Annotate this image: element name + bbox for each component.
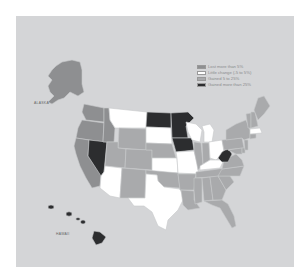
legend-label-gain-big: Gained more than 25% [208, 82, 251, 88]
alaska-label: ALASKA [34, 101, 49, 105]
legend-item-gain-big: Gained more than 25% [197, 82, 251, 88]
state-NJ[interactable] [244, 140, 248, 150]
state-MS[interactable] [194, 178, 202, 204]
state-ND[interactable] [146, 112, 171, 128]
legend-swatch-little [197, 71, 206, 76]
state-WY[interactable] [118, 128, 146, 150]
state-MT[interactable] [109, 108, 147, 128]
state-FL[interactable] [204, 200, 236, 228]
state-SD[interactable] [146, 127, 172, 144]
state-WA[interactable] [82, 104, 104, 122]
legend-swatch-gain [197, 77, 206, 82]
map-legend: Lost more than 5% Little change (-5 to 5… [197, 64, 251, 88]
state-AK[interactable] [48, 60, 84, 104]
state-MA[interactable] [250, 128, 262, 134]
us-map [0, 0, 303, 278]
state-MI[interactable] [202, 124, 214, 142]
state-CT[interactable] [250, 134, 256, 139]
state-NM[interactable] [120, 168, 146, 198]
hawaii-label: HAWAII [56, 232, 70, 236]
state-AR[interactable] [178, 174, 196, 190]
state-ME[interactable] [254, 96, 270, 120]
legend-swatch-lost [197, 65, 206, 70]
state-DE[interactable] [242, 148, 245, 153]
state-CO[interactable] [125, 149, 152, 170]
state-NY[interactable] [226, 120, 250, 140]
state-IA[interactable] [172, 138, 194, 152]
legend-swatch-gain-big [197, 83, 206, 88]
state-HI[interactable] [48, 205, 106, 245]
